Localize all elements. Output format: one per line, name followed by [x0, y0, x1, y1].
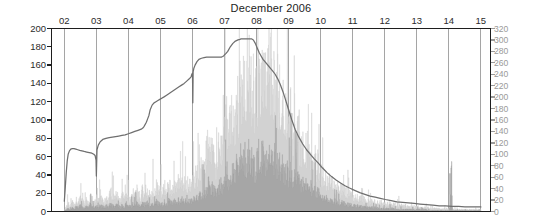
- seismicity-pressure-chart: December 2006 Number of events per hour …: [0, 0, 542, 224]
- plot-canvas: [0, 0, 542, 224]
